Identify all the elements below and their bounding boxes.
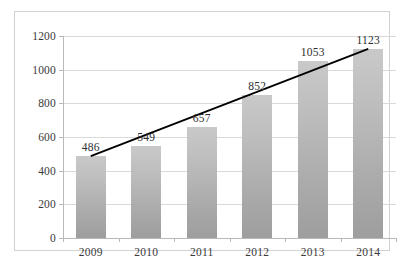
y-tick-mark [59, 204, 63, 205]
bar-value-label: 1053 [301, 46, 325, 58]
x-tick-label: 2013 [301, 246, 325, 258]
x-tick-mark [396, 238, 397, 242]
x-tick-mark [63, 238, 64, 242]
bar-value-label: 549 [137, 131, 155, 143]
x-tick-label: 2009 [79, 246, 103, 258]
y-tick-mark [59, 137, 63, 138]
y-tick-label: 200 [38, 198, 56, 210]
y-tick-label: 600 [38, 131, 56, 143]
y-tick-label: 1200 [32, 30, 56, 42]
bar-value-label: 852 [248, 80, 266, 92]
bar-value-label: 486 [82, 141, 100, 153]
chart-frame: 020040060080010001200 200920102011201220… [14, 11, 390, 251]
bar-value-label: 657 [193, 112, 211, 124]
x-tick-mark [174, 238, 175, 242]
y-tick-label: 400 [38, 165, 56, 177]
y-tick-mark [59, 103, 63, 104]
x-tick-label: 2010 [134, 246, 158, 258]
y-tick-label: 800 [38, 97, 56, 109]
gridline [63, 204, 396, 205]
chart-figure: 020040060080010001200 200920102011201220… [0, 0, 405, 265]
bar [76, 156, 106, 238]
x-tick-mark [285, 238, 286, 242]
bar [187, 127, 217, 238]
x-tick-mark [230, 238, 231, 242]
gridline [63, 103, 396, 104]
x-tick-label: 2014 [356, 246, 380, 258]
gridline [63, 171, 396, 172]
plot-area: 020040060080010001200 200920102011201220… [63, 36, 396, 238]
y-tick-mark [59, 70, 63, 71]
bar [131, 146, 161, 238]
x-tick-label: 2012 [245, 246, 269, 258]
gridline [63, 137, 396, 138]
x-tick-mark [119, 238, 120, 242]
bar [353, 49, 383, 238]
y-axis-line [63, 36, 64, 238]
bar-value-label: 1123 [357, 34, 380, 46]
bar [242, 95, 272, 238]
y-tick-label: 0 [50, 232, 56, 244]
gridline [63, 36, 396, 37]
gridline [63, 70, 396, 71]
bar [298, 61, 328, 238]
x-tick-label: 2011 [190, 246, 213, 258]
y-tick-label: 1000 [32, 64, 56, 76]
y-tick-mark [59, 171, 63, 172]
y-tick-mark [59, 36, 63, 37]
x-tick-mark [341, 238, 342, 242]
